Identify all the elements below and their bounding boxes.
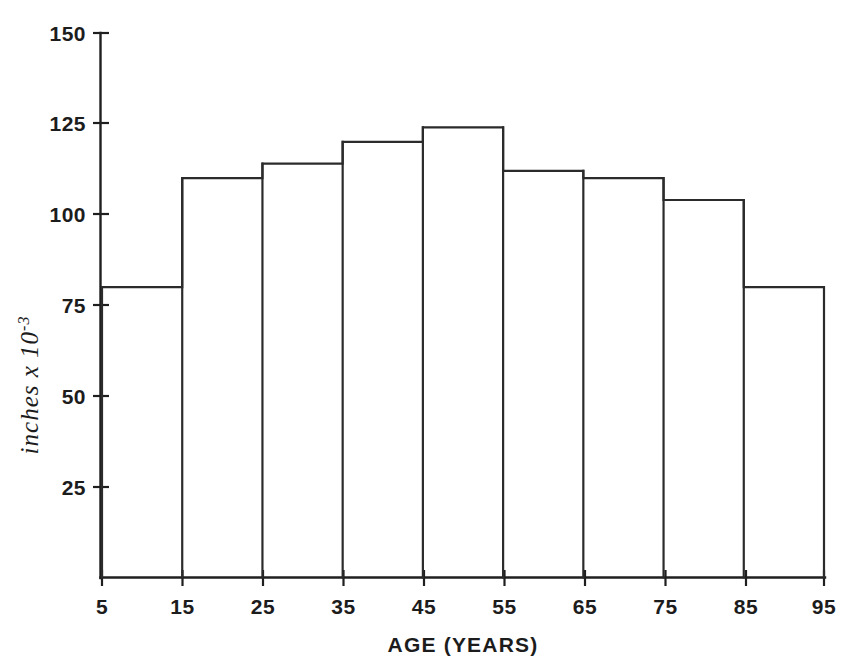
x-tick-label-45: 45: [412, 595, 436, 618]
y-axis-title-exponent: -3: [15, 316, 32, 331]
x-tick-label-5: 5: [96, 595, 108, 618]
y-tick-label-125: 125: [49, 112, 86, 135]
x-tick-label-65: 65: [573, 595, 597, 618]
histogram-bin-dividers: [182, 127, 744, 577]
x-tick-label-15: 15: [170, 595, 194, 618]
y-axis-tick-labels: 150 125 100 75 50 25: [49, 22, 86, 499]
x-tick-label-25: 25: [251, 595, 275, 618]
y-tick-label-25: 25: [62, 476, 86, 499]
x-tick-label-35: 35: [331, 595, 355, 618]
y-axis-title-text: inches x 10: [16, 331, 43, 454]
y-tick-label-50: 50: [62, 385, 86, 408]
x-tick-label-55: 55: [492, 595, 516, 618]
y-tick-label-75: 75: [62, 294, 86, 317]
y-tick-label-100: 100: [49, 203, 86, 226]
x-axis-title: AGE (YEARS): [388, 633, 539, 656]
svg-text:inches x 10-3: inches x 10-3: [15, 316, 43, 455]
y-axis-title: inches x 10-3: [15, 316, 43, 455]
x-tick-label-95: 95: [812, 595, 836, 618]
chart-canvas: 150 125 100 75 50 25 5 15 25 35 45: [0, 0, 850, 656]
y-tick-label-150: 150: [49, 22, 86, 45]
histogram-figure: 150 125 100 75 50 25 5 15 25 35 45: [0, 0, 850, 656]
histogram-step-outline: [102, 127, 824, 577]
x-tick-label-85: 85: [734, 595, 758, 618]
x-axis-tick-labels: 5 15 25 35 45 55 65 75 85 95: [96, 595, 836, 618]
x-tick-label-75: 75: [653, 595, 677, 618]
